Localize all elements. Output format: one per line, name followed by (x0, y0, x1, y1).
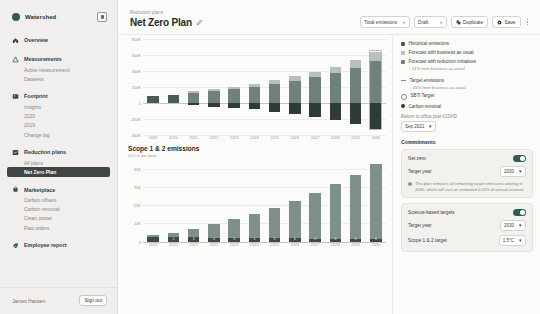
sidebar-item-footprint[interactable]: Footprint (0, 90, 117, 102)
bar: 6 (309, 160, 321, 242)
bar-segment (228, 87, 240, 89)
sidebar-subitem-all-plans[interactable]: All plans (0, 158, 117, 167)
sidebar-label-employee-report: Employee report (24, 242, 67, 248)
bar-slot[interactable]: 6 (285, 160, 305, 242)
net-zero-target-year-select[interactable]: 2030 ▾ (500, 166, 526, 177)
status-select-value: Draft (418, 20, 428, 25)
sidebar-subitem-2019[interactable]: 2019 (0, 121, 117, 130)
bar-slot[interactable] (143, 39, 163, 135)
page-title: Net Zero Plan (130, 17, 192, 28)
breadcrumb[interactable]: Reduction plans (130, 10, 203, 15)
save-button[interactable]: Save (492, 16, 520, 28)
bar-slot[interactable]: 4 (204, 160, 224, 242)
sidebar-label-measurements: Measurements (24, 56, 62, 62)
sidebar-subitem-active-measurement[interactable]: Active measurement (0, 65, 117, 74)
bar: 6 (289, 160, 301, 242)
sidebar-subitem-insights[interactable]: Insights (0, 102, 117, 111)
sbt-scope-value: 1.5°C (503, 238, 514, 243)
watershed-logo-icon (12, 13, 20, 21)
footprint-icon (12, 93, 19, 100)
bar-slot[interactable] (163, 39, 183, 135)
sidebar-subitem-carbon-removal[interactable]: Carbon removal (0, 205, 117, 214)
bar-segment (370, 61, 382, 103)
sidebar-subitem-2020[interactable]: 2020 (0, 112, 117, 121)
status-select[interactable]: Draft ▾ (414, 16, 447, 28)
header-left: Reduction plans Net Zero Plan (130, 10, 203, 28)
bar-slot[interactable] (265, 39, 285, 135)
bar-slot[interactable] (305, 39, 325, 135)
bar-slot[interactable]: 6 (325, 160, 345, 242)
bar-slot[interactable] (346, 39, 366, 135)
bar (309, 39, 321, 135)
sbt-target-year-select[interactable]: 2030 ▾ (500, 220, 526, 231)
bar-segment (147, 237, 159, 242)
sidebar-subitem-carbon-offsets[interactable]: Carbon offsets (0, 196, 117, 205)
legend-item-reduction-initiatives[interactable]: Forecast with reduction initiatives ↓ 14… (401, 59, 533, 71)
bar-slot[interactable] (366, 39, 386, 135)
bar-slot[interactable]: 6 (366, 160, 386, 242)
sidebar-subitem-change-log[interactable]: Change log (0, 130, 117, 139)
bar-slot[interactable] (143, 160, 163, 242)
sign-out-button[interactable]: Sign out (79, 295, 107, 306)
leaf-icon (12, 242, 19, 249)
sbt-target-year-label: Target year (408, 223, 431, 228)
scope12-subtitle: tCO₂e per year (128, 153, 386, 158)
bar-slot[interactable] (285, 39, 305, 135)
ytick: 0 (139, 239, 141, 244)
legend-item-bau[interactable]: Forecast with business as usual (401, 50, 533, 56)
bar-segment (228, 89, 240, 103)
sidebar-subitem-datasets[interactable]: Datasets (0, 74, 117, 83)
bar-slot[interactable]: 3 (184, 160, 204, 242)
bar-slot[interactable]: 2 (163, 160, 183, 242)
legend-item-sbti-target[interactable]: SBTi Target (401, 93, 533, 100)
scope12-plot: 40K 30K 20K 10K 0 23455666666 (126, 160, 386, 242)
pencil-icon[interactable] (196, 19, 203, 26)
sbt-toggle[interactable] (513, 209, 526, 216)
bar-slot[interactable] (244, 39, 264, 135)
bar-slot[interactable]: 6 (346, 160, 366, 242)
brand-name: Watershed (25, 14, 56, 20)
bar-segment (249, 87, 261, 103)
bar-slot[interactable]: 5 (224, 160, 244, 242)
sidebar-item-employee-report[interactable]: Employee report (0, 239, 117, 251)
bar-segment (370, 52, 382, 62)
sidebar-subitem-net-zero-plan[interactable]: Net Zero Plan (7, 167, 110, 176)
legend-item-historical[interactable]: Historical emissions (401, 41, 533, 47)
scope12-gridarea: 23455666666 (143, 160, 386, 242)
kebab-menu-icon[interactable] (525, 17, 531, 28)
sbt-scope-select[interactable]: 1.5°C ▾ (499, 235, 526, 246)
sidebar-label-reduction-plans: Reduction plans (24, 149, 66, 155)
sidebar-item-measurements[interactable]: Measurements (0, 53, 117, 65)
collapse-panel-icon[interactable] (97, 12, 107, 22)
return-to-office-label: Return to office post-COVID (401, 114, 533, 119)
bar-slot[interactable]: 5 (244, 160, 264, 242)
legend-item-carbon-removal[interactable]: Carbon removal (401, 104, 533, 110)
sidebar-subitem-past-orders[interactable]: Past orders (0, 223, 117, 232)
return-to-office-select[interactable]: Sep 2021 ▾ (401, 121, 436, 132)
sidebar-item-marketplace[interactable]: Marketplace (0, 184, 117, 196)
user-name: James Hansen (12, 298, 45, 304)
ytick: 10K (134, 221, 141, 226)
bar-segment (269, 208, 281, 239)
bar (188, 39, 200, 135)
chevron-down-icon: ▾ (440, 20, 442, 25)
ytick: 40K (134, 166, 141, 171)
bar-slot[interactable] (325, 39, 345, 135)
net-zero-toggle[interactable] (513, 155, 526, 162)
bar (147, 160, 159, 242)
sidebar-item-overview[interactable]: Overview (0, 34, 117, 46)
ytick: -400K (130, 133, 141, 138)
sidebar-subitem-clean-power[interactable]: Clean power (0, 214, 117, 223)
sidebar-item-reduction-plans[interactable]: Reduction plans (0, 146, 117, 158)
bar-slot[interactable]: 6 (265, 160, 285, 242)
bar-slot[interactable] (184, 39, 204, 135)
total-emissions-gridarea (143, 39, 386, 135)
bar-slot[interactable] (204, 39, 224, 135)
duplicate-button[interactable]: Duplicate (451, 16, 489, 28)
sidebar-label-overview: Overview (24, 37, 48, 43)
legend-item-target-emissions[interactable]: Target emissions ↓ 45% from business-as-… (401, 78, 533, 90)
bar-segment (249, 214, 261, 238)
bar-slot[interactable]: 6 (305, 160, 325, 242)
bar-slot[interactable] (224, 39, 244, 135)
metric-select[interactable]: Total emissions ▾ (360, 16, 410, 28)
